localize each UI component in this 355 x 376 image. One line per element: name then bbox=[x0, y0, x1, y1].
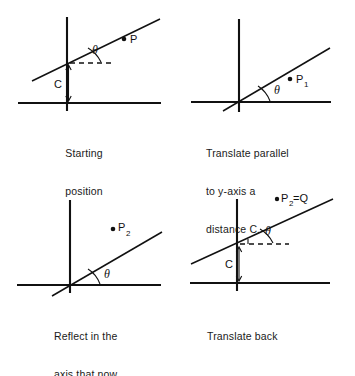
caption-translate-back: Translate back bbox=[207, 305, 347, 368]
caption-reflect-in-axis: Reflect in the axis that now passes thro… bbox=[54, 305, 184, 376]
mirror-line bbox=[52, 232, 162, 296]
caption-line: axis that now bbox=[54, 368, 184, 376]
panel-translate-parallel: θ P 1 bbox=[178, 0, 355, 120]
angle-label: θ bbox=[274, 83, 280, 97]
angle-label: θ bbox=[92, 43, 98, 57]
angle-label: θ bbox=[104, 267, 110, 281]
point-equals-q-label: =Q bbox=[293, 192, 308, 204]
point-label: P bbox=[130, 33, 137, 45]
point-marker-dot bbox=[288, 77, 293, 82]
point-marker-dot bbox=[122, 37, 127, 42]
point-subscript: 1 bbox=[304, 80, 309, 89]
point-label: P bbox=[296, 73, 303, 85]
point-label: P bbox=[118, 221, 125, 233]
point-subscript: 2 bbox=[126, 229, 131, 238]
angle-label: θ bbox=[265, 224, 271, 238]
point-label: P bbox=[281, 192, 288, 204]
panel-reflect-in-axis: θ P 2 bbox=[0, 188, 178, 303]
caption-line: Reflect in the bbox=[54, 330, 184, 343]
reflection-construction-figure: θ C P Starting position θ bbox=[0, 0, 355, 376]
point-marker-dot bbox=[275, 197, 279, 201]
angle-arc bbox=[258, 86, 270, 101]
caption-line: Starting bbox=[34, 147, 134, 160]
point-marker-dot bbox=[111, 227, 116, 232]
mirror-line bbox=[191, 199, 333, 264]
panel-starting-position: θ C P bbox=[0, 0, 178, 120]
distance-label: C bbox=[54, 78, 62, 90]
panel-translate-back: θ C P 2 =Q bbox=[178, 188, 355, 303]
caption-line: Translate back bbox=[207, 330, 347, 343]
caption-line: Translate parallel bbox=[206, 147, 355, 160]
distance-label: C bbox=[225, 258, 233, 270]
